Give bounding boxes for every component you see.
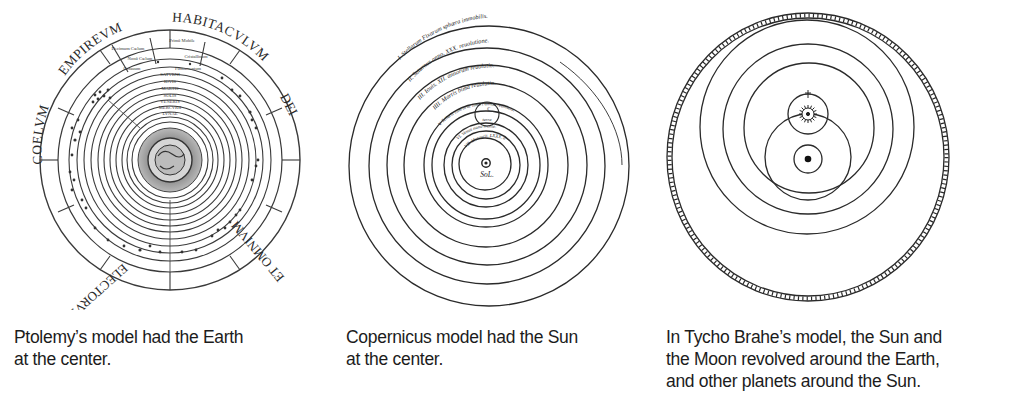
tycho-caption: In Tycho Brahe’s model, the Sun and the … — [666, 326, 942, 392]
caption-line: the Moon revolved around the Earth, — [666, 348, 942, 370]
tycho-panel: In Tycho Brahe’s model, the Sun and the … — [0, 0, 1019, 415]
caption-line: and other planets around the Sun. — [666, 370, 942, 392]
caption-line: In Tycho Brahe’s model, the Sun and — [666, 326, 942, 348]
tycho-diagram — [0, 0, 1019, 310]
